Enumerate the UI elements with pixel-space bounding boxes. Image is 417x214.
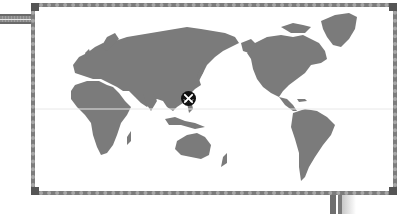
region-greenland [321, 13, 357, 47]
region-australia [175, 133, 211, 159]
frame-pillar [330, 193, 352, 214]
region-africa [71, 81, 131, 155]
crossed-swords-icon [183, 93, 194, 104]
frame-connector-bar [0, 14, 34, 24]
region-caribbean [297, 99, 307, 102]
pillar-shadow [342, 193, 356, 214]
region-north-america [247, 35, 327, 97]
region-arctic-islands [281, 23, 311, 33]
region-indonesia [165, 117, 205, 129]
region-new-zealand [221, 153, 227, 167]
world-map[interactable] [35, 7, 393, 191]
battle-marker[interactable] [181, 91, 196, 106]
world-map-frame [31, 3, 397, 195]
region-madagascar [127, 131, 131, 145]
pillar-segment [330, 193, 336, 214]
region-south-america [291, 109, 335, 181]
